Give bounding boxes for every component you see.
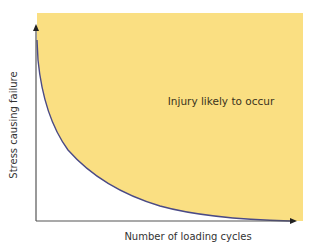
region-label: Injury likely to occur <box>150 95 292 107</box>
x-axis-label: Number of loading cycles <box>124 231 251 242</box>
injury-region <box>37 13 303 221</box>
y-axis-label: Stress causing failure <box>8 71 19 178</box>
